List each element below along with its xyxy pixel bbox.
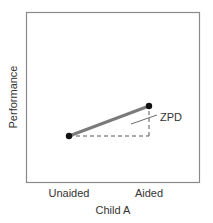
x-tick-unaided: Unaided <box>49 187 90 199</box>
x-tick-aided: Aided <box>135 187 163 199</box>
point-unaided <box>66 133 72 139</box>
point-aided <box>146 103 152 109</box>
x-axis-label: Child A <box>96 204 132 216</box>
zpd-label: ZPD <box>160 111 182 123</box>
y-axis-label: Performance <box>7 66 19 129</box>
zpd-chart: ZPD Unaided Aided Child A Performance <box>0 0 213 223</box>
plot-frame <box>27 13 200 183</box>
